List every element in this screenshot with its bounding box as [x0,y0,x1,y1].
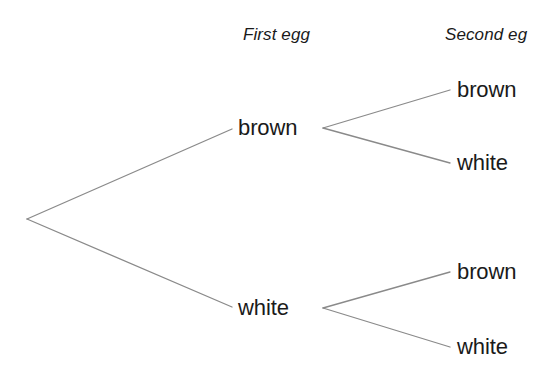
tree-diagram-canvas: First egg Second eg brown white brown wh… [0,0,547,387]
branch-white-to-white [323,308,450,347]
branch-brown-to-brown [323,90,450,128]
column-header-second-egg: Second eg [445,26,527,43]
node-first-egg-white: white [238,297,289,319]
branch-brown-to-white [323,128,450,163]
column-header-first-egg: First egg [243,26,310,43]
node-second-egg-brown-white: white [457,152,508,174]
branch-root-to-white [27,219,232,307]
node-first-egg-brown: brown [238,117,297,139]
tree-branch-lines [0,0,547,387]
node-second-egg-white-white: white [457,336,508,358]
node-second-egg-brown-brown: brown [457,79,516,101]
branch-white-to-brown [323,272,450,308]
node-second-egg-white-brown: brown [457,261,516,283]
branch-root-to-brown [27,129,232,219]
